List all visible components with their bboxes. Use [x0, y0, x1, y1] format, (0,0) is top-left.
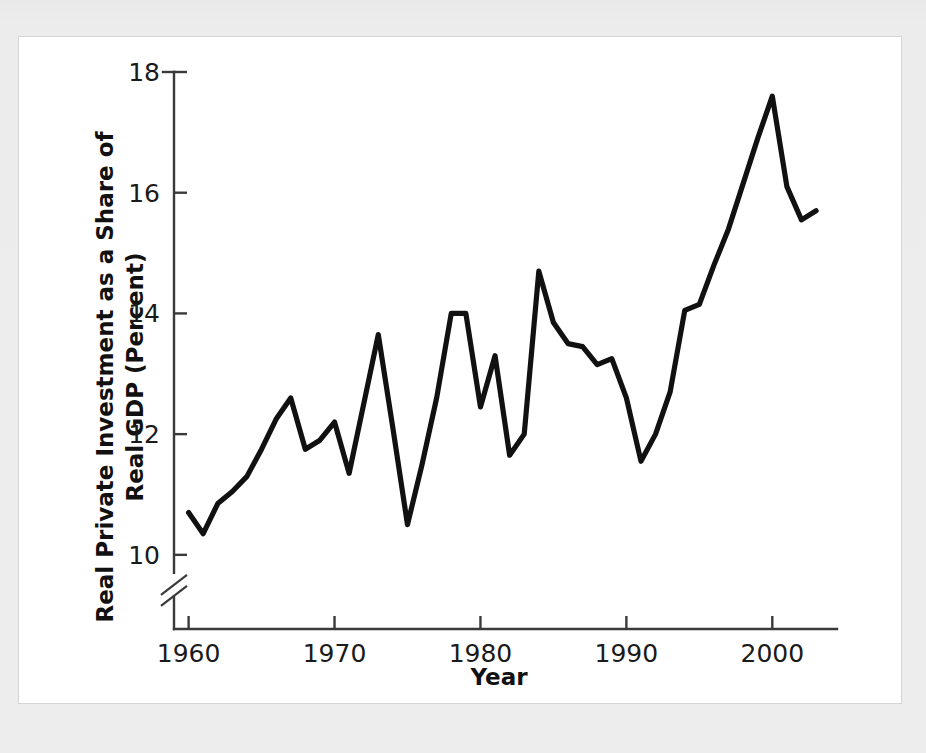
y-axis-title-line-2: Real GDP (Percent)	[122, 253, 148, 502]
figure-paper: Real Private Investment as a Share of Re…	[18, 36, 902, 704]
y-axis-title-line-1: Real Private Investment as a Share of	[92, 130, 118, 622]
y-tick-label-16: 16	[128, 179, 160, 208]
y-tick-label-14: 14	[128, 299, 160, 328]
x-tick-label-1960: 1960	[157, 639, 221, 668]
x-axis-title: Year	[469, 664, 528, 690]
x-tick-label-1990: 1990	[595, 639, 659, 668]
scanned-page-background: Real Private Investment as a Share of Re…	[0, 0, 926, 753]
y-tick-label-10: 10	[128, 541, 160, 570]
line-chart: Real Private Investment as a Share of Re…	[19, 37, 903, 705]
break-slash-1	[161, 575, 187, 595]
axes-group	[163, 72, 837, 629]
data-series-line	[189, 96, 816, 534]
x-tick-label-2000: 2000	[740, 639, 804, 668]
x-tick-label-1970: 1970	[303, 639, 367, 668]
y-tick-label-12: 12	[128, 420, 160, 449]
y-tick-label-18: 18	[128, 58, 160, 87]
chart-figure: Real Private Investment as a Share of Re…	[19, 37, 903, 705]
